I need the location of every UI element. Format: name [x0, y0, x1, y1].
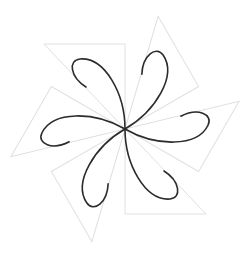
petal-curve	[38, 94, 125, 175]
petal-curve	[64, 129, 151, 210]
petal-curve	[99, 48, 186, 129]
pinwheel-diagram	[0, 0, 250, 258]
petal-curve	[125, 83, 212, 164]
